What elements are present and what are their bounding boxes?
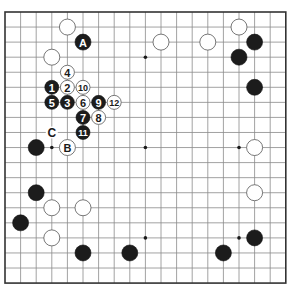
black-stone-icon [247, 230, 263, 246]
move-10: 10 [76, 80, 90, 94]
black-stone [13, 215, 29, 231]
black-stone-icon [122, 245, 138, 261]
white-stone [153, 34, 169, 50]
move-number: 8 [96, 112, 102, 124]
white-stone-icon [231, 19, 247, 35]
move-5: 5 [45, 95, 59, 109]
go-board: AB 123456789101112 C [0, 0, 293, 301]
black-stone-icon [13, 215, 29, 231]
black-stone [215, 245, 231, 261]
star-point [144, 236, 148, 240]
black-stone: A [75, 34, 91, 50]
black-stone-icon [247, 34, 263, 50]
white-stone-icon [44, 49, 60, 65]
move-12: 12 [107, 95, 121, 109]
move-6: 6 [76, 95, 90, 109]
move-number: 2 [64, 82, 70, 94]
white-stone [44, 49, 60, 65]
move-1: 1 [45, 80, 59, 94]
point-label: C [47, 126, 56, 140]
black-stone [231, 49, 247, 65]
move-number: 5 [49, 97, 55, 109]
black-stone-icon [75, 245, 91, 261]
move-7: 7 [76, 110, 90, 124]
white-stone [75, 200, 91, 216]
star-point [237, 236, 241, 240]
white-stone-icon [44, 200, 60, 216]
move-number: 12 [109, 98, 119, 108]
move-number: 11 [78, 128, 88, 138]
white-stone [247, 185, 263, 201]
black-stone [122, 245, 138, 261]
white-stone [247, 140, 263, 156]
white-stone [44, 200, 60, 216]
white-stone-icon [247, 185, 263, 201]
star-point [237, 146, 241, 150]
stone-label: B [63, 142, 71, 154]
white-stone [59, 19, 75, 35]
black-stone [75, 245, 91, 261]
black-stone [247, 230, 263, 246]
move-9: 9 [92, 95, 106, 109]
white-stone [44, 230, 60, 246]
white-stone-icon [44, 230, 60, 246]
white-stone-icon [59, 19, 75, 35]
black-stone [28, 185, 44, 201]
star-point [50, 146, 54, 150]
move-number: 6 [80, 97, 86, 109]
black-stone [247, 34, 263, 50]
move-number: 9 [96, 97, 102, 109]
move-4: 4 [60, 65, 74, 79]
move-number: 1 [49, 82, 55, 94]
stone-label: A [79, 37, 87, 49]
white-stone-icon [153, 34, 169, 50]
black-stone [28, 140, 44, 156]
move-number: 3 [64, 97, 70, 109]
star-point [144, 55, 148, 59]
white-stone-icon [247, 140, 263, 156]
star-point [144, 146, 148, 150]
black-stone-icon [231, 49, 247, 65]
move-2: 2 [60, 80, 74, 94]
black-stone-icon [215, 245, 231, 261]
move-number: 7 [80, 112, 86, 124]
move-3: 3 [60, 95, 74, 109]
white-stone-icon [200, 34, 216, 50]
black-stone-icon [247, 79, 263, 95]
stones-layer: AB [13, 19, 263, 261]
white-stone [231, 19, 247, 35]
black-stone [247, 79, 263, 95]
white-stone [200, 34, 216, 50]
black-stone-icon [28, 185, 44, 201]
white-stone: B [59, 140, 75, 156]
white-stone-icon [75, 200, 91, 216]
move-8: 8 [92, 110, 106, 124]
point-labels-layer: C [46, 126, 58, 140]
black-stone-icon [28, 140, 44, 156]
move-11: 11 [76, 125, 90, 139]
move-number: 4 [64, 67, 71, 79]
move-number: 10 [78, 83, 88, 93]
